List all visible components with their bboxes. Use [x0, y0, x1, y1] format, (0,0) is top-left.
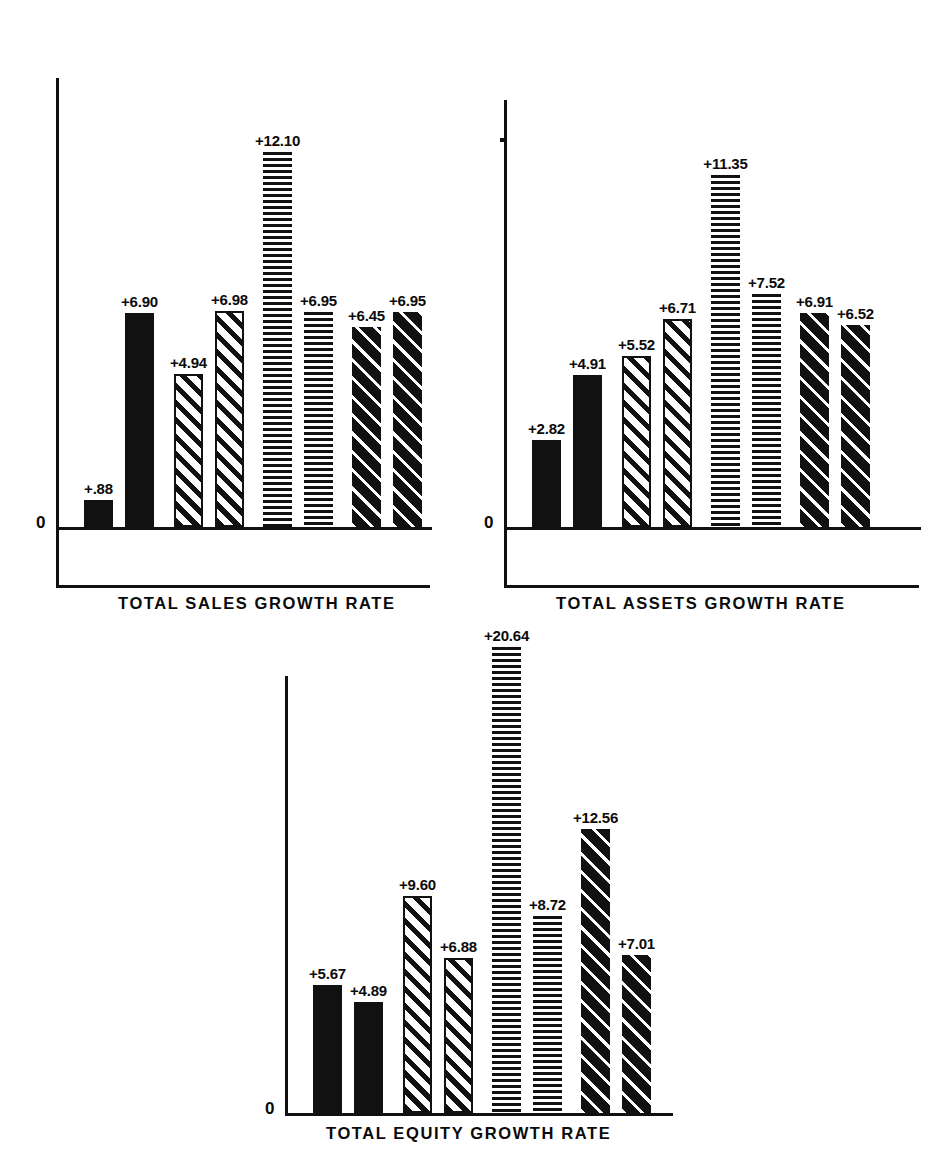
y-axis-tick-assets	[500, 138, 507, 142]
bar-sales-3	[174, 374, 203, 527]
bar-value-label-equity-5: +20.64	[482, 628, 532, 643]
bar-value-label-sales-4: +6.98	[205, 292, 255, 307]
bar-value-label-equity-8: +7.01	[612, 936, 662, 951]
bar-value-label-equity-4: +6.88	[434, 939, 484, 954]
bar-equity-6	[533, 916, 562, 1113]
zero-baseline-sales	[56, 527, 432, 530]
bar-value-label-assets-2: +4.91	[563, 356, 613, 371]
bar-sales-8	[393, 312, 422, 527]
bar-sales-4	[215, 311, 244, 527]
bar-value-label-equity-2: +4.89	[344, 983, 394, 998]
bar-value-label-sales-6: +6.95	[294, 293, 344, 308]
bar-equity-1	[313, 985, 342, 1113]
bar-sales-6	[304, 312, 333, 527]
chart-title-sales: TOTAL SALES GROWTH RATE	[118, 595, 396, 612]
y-axis-assets	[504, 100, 507, 527]
y-axis-sales	[56, 78, 59, 527]
bar-value-label-assets-7: +6.91	[790, 294, 840, 309]
bar-sales-2	[125, 313, 154, 527]
bar-assets-7	[800, 313, 829, 527]
bar-value-label-assets-8: +6.52	[831, 306, 881, 321]
bar-sales-1	[84, 500, 113, 527]
growth-rate-figure: { "figure": { "background": "#ffffff", "…	[0, 0, 931, 1169]
bar-sales-7	[352, 327, 381, 527]
bar-assets-8	[841, 325, 870, 527]
chart-panel-sales: 0+.88+6.90+4.94+6.98+12.10+6.95+6.45+6.9…	[0, 0, 931, 1169]
zero-baseline-assets	[504, 527, 921, 530]
bar-equity-7	[581, 829, 610, 1113]
bar-value-label-sales-2: +6.90	[115, 294, 165, 309]
chart-title-assets: TOTAL ASSETS GROWTH RATE	[556, 595, 846, 612]
bar-assets-2	[573, 375, 602, 527]
bar-assets-4	[663, 319, 692, 527]
bar-equity-5	[492, 647, 521, 1113]
chart-panel-equity: 0+5.67+4.89+9.60+6.88+20.64+8.72+12.56+7…	[0, 0, 931, 1169]
chart-title-equity: TOTAL EQUITY GROWTH RATE	[326, 1125, 611, 1142]
bar-value-label-sales-8: +6.95	[383, 293, 433, 308]
bar-sales-5	[263, 152, 292, 527]
bar-value-label-equity-3: +9.60	[393, 877, 443, 892]
bar-equity-2	[354, 1002, 383, 1113]
zero-axis-label-sales: 0	[36, 514, 45, 531]
chart-panel-assets: 0+2.82+4.91+5.52+6.71+11.35+7.52+6.91+6.…	[0, 0, 931, 1169]
bar-value-label-assets-4: +6.71	[653, 300, 703, 315]
bar-assets-6	[752, 294, 781, 527]
bar-value-label-assets-1: +2.82	[522, 421, 572, 436]
zero-axis-label-assets: 0	[484, 514, 493, 531]
bar-equity-4	[444, 958, 473, 1113]
zero-baseline-equity	[285, 1113, 673, 1116]
bar-assets-5	[711, 175, 740, 527]
bar-value-label-sales-3: +4.94	[164, 355, 214, 370]
bar-equity-3	[403, 896, 432, 1113]
bar-value-label-equity-7: +12.56	[571, 810, 621, 825]
bar-value-label-equity-6: +8.72	[523, 897, 573, 912]
bar-value-label-assets-6: +7.52	[742, 275, 792, 290]
zero-axis-label-equity: 0	[265, 1100, 274, 1117]
bar-value-label-sales-5: +12.10	[253, 133, 303, 148]
bar-value-label-sales-7: +6.45	[342, 308, 392, 323]
bar-value-label-assets-3: +5.52	[612, 337, 662, 352]
bar-value-label-sales-1: +.88	[74, 481, 124, 496]
frame-bottom-assets	[504, 585, 919, 588]
frame-left-sales	[56, 527, 59, 585]
bar-equity-8	[622, 955, 651, 1113]
bar-assets-1	[532, 440, 561, 527]
bar-value-label-equity-1: +5.67	[303, 966, 353, 981]
bar-value-label-assets-5: +11.35	[701, 156, 751, 171]
y-axis-equity	[285, 676, 288, 1113]
frame-left-assets	[504, 527, 507, 585]
frame-bottom-sales	[56, 585, 430, 588]
bar-assets-3	[622, 356, 651, 527]
